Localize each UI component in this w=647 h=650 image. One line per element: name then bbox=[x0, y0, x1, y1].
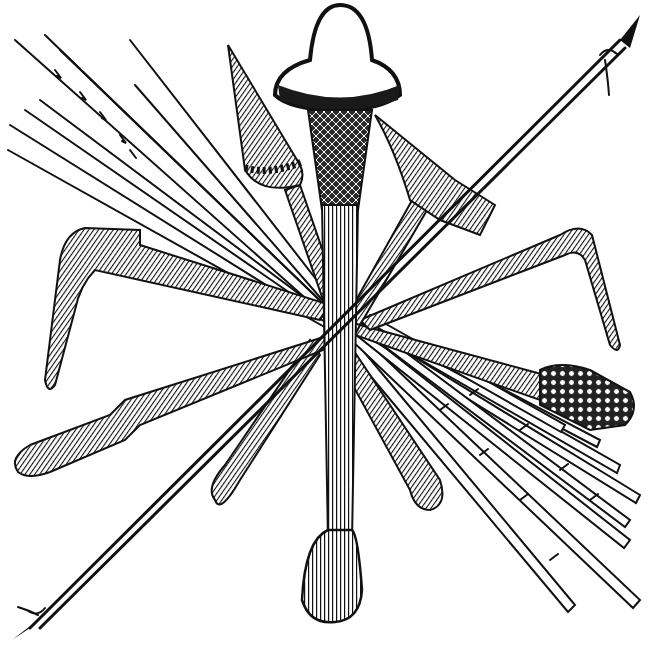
weapons-engraving bbox=[0, 0, 647, 650]
